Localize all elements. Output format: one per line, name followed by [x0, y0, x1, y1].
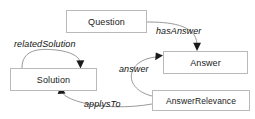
edge-path-relatedsolution [22, 49, 80, 68]
arrowhead-hasanswer [193, 43, 201, 51]
node-question-label: Question [88, 17, 125, 27]
edge-label-hasanswer: hasAnswer [156, 26, 201, 36]
diagram-canvas: Question Answer AnswerRelevance Solution… [0, 0, 255, 119]
edge-label-relatedsolution: relatedSolution [14, 39, 76, 49]
node-answerrelevance-label: AnswerRelevance [166, 96, 236, 106]
edge-label-answer: answer [119, 64, 149, 74]
node-solution[interactable]: Solution [10, 68, 97, 91]
node-answer-label: Answer [190, 58, 221, 68]
edge-label-applysto: applysTo [84, 99, 121, 109]
node-solution-label: Solution [37, 75, 70, 85]
node-answerrelevance[interactable]: AnswerRelevance [152, 90, 250, 111]
node-question[interactable]: Question [66, 10, 147, 33]
arrowhead-answer [155, 52, 163, 60]
node-answer[interactable]: Answer [163, 51, 248, 74]
